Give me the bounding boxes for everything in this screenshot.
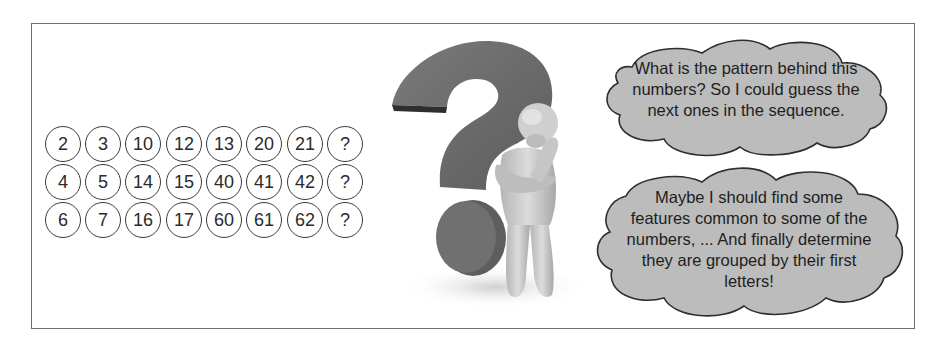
number-circle: 60 <box>206 202 242 238</box>
thought-line: letters! <box>590 271 908 292</box>
number-circle: 3 <box>85 126 121 162</box>
number-circle: 2 <box>45 126 81 162</box>
number-circle: 16 <box>125 202 161 238</box>
sequence-row-3: 6 7 16 17 60 61 62 ? <box>45 202 375 238</box>
sequence-row-2: 4 5 14 15 40 41 42 ? <box>45 164 375 200</box>
number-circle: 40 <box>206 164 242 200</box>
number-circle: 15 <box>166 164 202 200</box>
number-circle: 42 <box>287 164 323 200</box>
thought-cloud-top: What is the pattern behind this numbers?… <box>602 33 890 163</box>
thought-text-bottom: Maybe I should find some features common… <box>590 187 908 292</box>
thinking-person-illustration <box>380 25 610 330</box>
unknown-circle: ? <box>327 126 363 162</box>
sequence-row-1: 2 3 10 12 13 20 21 ? <box>45 126 375 162</box>
thought-line: next ones in the sequence. <box>602 100 890 121</box>
number-circle: 21 <box>287 126 323 162</box>
thought-line: Maybe I should find some <box>590 187 908 208</box>
thought-cloud-bottom: Maybe I should find some features common… <box>590 160 908 322</box>
number-circle: 5 <box>85 164 121 200</box>
number-circle: 4 <box>45 164 81 200</box>
thought-line: numbers, ... And finally determine <box>590 229 908 250</box>
thought-line: What is the pattern behind this <box>602 58 890 79</box>
number-circle: 14 <box>125 164 161 200</box>
number-circle: 6 <box>45 202 81 238</box>
question-mark-icon <box>380 25 610 330</box>
number-circle: 10 <box>125 126 161 162</box>
thought-line: they are grouped by their first <box>590 250 908 271</box>
unknown-circle: ? <box>327 164 363 200</box>
thought-line: numbers? So I could guess the <box>602 79 890 100</box>
number-circle: 7 <box>85 202 121 238</box>
thought-text-top: What is the pattern behind this numbers?… <box>602 58 890 121</box>
unknown-circle: ? <box>327 202 363 238</box>
number-circle: 62 <box>287 202 323 238</box>
number-circle: 12 <box>166 126 202 162</box>
thought-line: features common to some of the <box>590 208 908 229</box>
number-circle: 13 <box>206 126 242 162</box>
number-circle: 20 <box>246 126 282 162</box>
number-circle: 61 <box>246 202 282 238</box>
number-circle: 41 <box>246 164 282 200</box>
number-circle: 17 <box>166 202 202 238</box>
